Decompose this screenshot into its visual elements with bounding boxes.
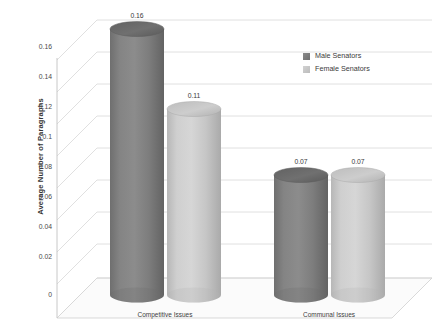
x-tick-label-competitive-issues: Competitive Issues <box>110 312 220 319</box>
legend: Male Senators Female Senators <box>303 50 415 76</box>
legend-swatch-male-icon <box>303 53 310 60</box>
data-label-female-competitive: 0.11 <box>174 93 214 100</box>
data-label-male-competitive: 0.16 <box>117 13 157 20</box>
legend-item-male-senators[interactable]: Male Senators <box>303 50 415 62</box>
bar-female-competitive[interactable] <box>167 102 221 303</box>
bar-female-communal[interactable] <box>331 168 385 303</box>
chart-container: Average Number of Paragraphs 0.16 0.14 0… <box>0 0 440 331</box>
legend-swatch-female-icon <box>303 66 310 73</box>
legend-item-female-senators[interactable]: Female Senators <box>303 63 415 75</box>
bar-male-competitive[interactable] <box>110 22 164 303</box>
data-label-male-communal: 0.07 <box>281 159 321 166</box>
legend-label-male-senators: Male Senators <box>315 52 361 59</box>
x-tick-label-communal-issues: Communal Issues <box>274 312 384 319</box>
left-wall <box>57 20 97 318</box>
legend-label-female-senators: Female Senators <box>315 65 370 72</box>
data-label-female-communal: 0.07 <box>338 159 378 166</box>
bar-male-communal[interactable] <box>274 168 328 303</box>
